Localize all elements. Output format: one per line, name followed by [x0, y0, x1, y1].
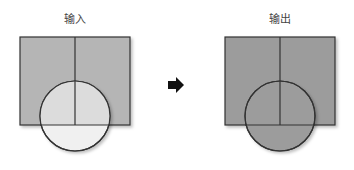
output-panel	[225, 37, 335, 151]
input-panel	[20, 37, 130, 151]
arrow-right-icon	[168, 77, 184, 93]
blend-diagram	[0, 0, 354, 170]
